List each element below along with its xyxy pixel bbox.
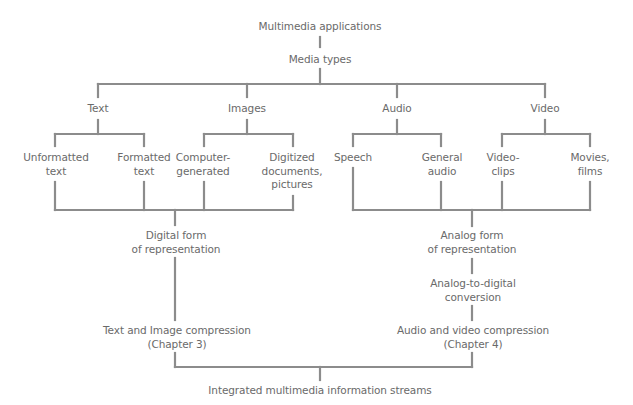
leaf-formatted-text: Formatted text (117, 151, 170, 178)
leaf-general-audio: General audio (422, 151, 463, 178)
analog-form-node: Analog form of representation (428, 229, 517, 256)
analog-to-digital-node: Analog-to-digital conversion (430, 277, 516, 304)
category-text: Text (88, 102, 109, 116)
category-video: Video (531, 102, 560, 116)
root-node: Multimedia applications (259, 20, 382, 34)
digital-form-node: Digital form of representation (132, 229, 221, 256)
leaf-digitized-documents: Digitized documents, pictures (262, 151, 323, 192)
leaf-unformatted-text: Unformatted text (23, 151, 89, 178)
leaf-computer-generated: Computer- generated (176, 151, 230, 178)
leaf-video-clips: Video- clips (487, 151, 520, 178)
media-types-node: Media types (289, 53, 352, 67)
audio-video-compression-node: Audio and video compression (Chapter 4) (397, 324, 549, 351)
leaf-movies-films: Movies, films (570, 151, 609, 178)
category-images: Images (228, 102, 266, 116)
text-image-compression-node: Text and Image compression (Chapter 3) (103, 324, 251, 351)
category-audio: Audio (382, 102, 411, 116)
output-node: Integrated multimedia information stream… (208, 384, 431, 398)
leaf-speech: Speech (334, 151, 372, 165)
multimedia-flow-diagram: Multimedia applications Media types Text… (0, 0, 633, 405)
